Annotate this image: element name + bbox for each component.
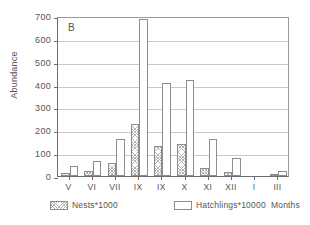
x-tick-mark [115, 177, 116, 180]
bar-nests [84, 171, 93, 176]
bar-hatchlings [209, 139, 218, 176]
x-tick-mark [92, 177, 93, 180]
legend-label-nests: Nests*1000 [72, 200, 118, 210]
legend-item-nests: Nests*1000 [50, 200, 118, 210]
x-tick-label: III [263, 182, 291, 192]
bar-hatchlings [116, 139, 125, 176]
y-axis-title: Abundance [9, 30, 19, 120]
y-tick-label: 200 [35, 126, 51, 136]
x-tick-mark [69, 177, 70, 180]
x-tick-mark [254, 177, 255, 180]
bar-hatchlings [186, 80, 195, 176]
bar-hatchlings [93, 161, 102, 176]
bar-nests [108, 163, 117, 176]
bar-hatchlings [232, 158, 241, 176]
x-tick-mark [185, 177, 186, 180]
x-tick-mark [277, 177, 278, 180]
bar-nests [224, 172, 233, 176]
bar-nests [131, 124, 140, 176]
bar-nests [61, 173, 70, 176]
y-tick-label: 700 [35, 12, 51, 22]
legend-swatch-hatchlings-icon [174, 201, 192, 210]
chart-legend: Nests*1000 Hatchlings*10000 Months [50, 200, 300, 218]
y-tick-label: 100 [35, 149, 51, 159]
bar-nests [270, 174, 279, 176]
x-tick-mark [208, 177, 209, 180]
bar-hatchlings [278, 171, 287, 176]
legend-label-hatchlings: Hatchlings*10000 [196, 200, 266, 210]
y-tick-label: 0 [46, 172, 51, 182]
x-tick-mark [231, 177, 232, 180]
bar-nests [200, 168, 209, 176]
bar-hatchlings [139, 19, 148, 176]
bar-nests [154, 146, 163, 176]
x-tick-mark [161, 177, 162, 180]
y-tick-label: 300 [35, 103, 51, 113]
bar-nests [177, 144, 186, 176]
y-tick-label: 600 [35, 35, 51, 45]
bar-hatchlings [162, 83, 171, 176]
x-axis: VVIVIIIXIXXXIXIIIIII [57, 177, 289, 199]
legend-item-hatchlings: Hatchlings*10000 [174, 200, 266, 210]
bar-series-container [58, 18, 288, 176]
bar-hatchlings [70, 166, 79, 176]
y-tick-label: 400 [35, 81, 51, 91]
legend-swatch-nests-icon [50, 201, 68, 210]
chart-figure: Abundance B 0100200300400500600700 VVIVI… [0, 0, 310, 225]
plot-area: B 0100200300400500600700 [57, 17, 289, 177]
x-axis-title: Months [271, 200, 300, 210]
x-tick-mark [138, 177, 139, 180]
y-tick-label: 500 [35, 58, 51, 68]
